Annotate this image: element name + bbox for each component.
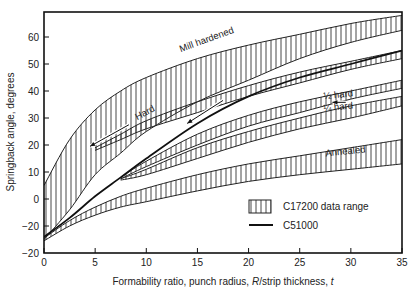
- chart-canvas: Mill hardenedHard½ hard¼ hardAnnealed 05…: [0, 0, 415, 295]
- x-tick-label: 30: [345, 257, 357, 268]
- legend-label-c51000: C51000: [283, 220, 318, 231]
- y-tick-label: 10: [28, 167, 40, 178]
- x-tick-label: 5: [92, 257, 98, 268]
- x-axis: 05101520253035: [41, 248, 408, 268]
- x-tick-label: 35: [396, 257, 408, 268]
- x-tick-label: 25: [294, 257, 306, 268]
- x-tick-label: 10: [141, 257, 153, 268]
- label-mill-hardened: Mill hardened: [178, 24, 235, 54]
- legend: C17200 data range C51000: [249, 200, 369, 231]
- y-tick-label: 50: [28, 59, 40, 70]
- x-tick-label: 15: [192, 257, 204, 268]
- y-tick-label: −20: [22, 248, 39, 259]
- y-tick-label: 30: [28, 113, 40, 124]
- y-tick-label: 40: [28, 86, 40, 97]
- y-tick-label: 20: [28, 140, 40, 151]
- springback-chart: Mill hardenedHard½ hard¼ hardAnnealed 05…: [0, 0, 415, 295]
- y-axis-label: Springback angle, degrees: [5, 73, 16, 192]
- x-tick-label: 20: [243, 257, 255, 268]
- x-tick-label: 0: [41, 257, 47, 268]
- x-axis-label: Formability ratio, punch radius, R/strip…: [112, 276, 334, 287]
- legend-hatch-swatch: [249, 200, 271, 213]
- legend-label-c17200: C17200 data range: [283, 201, 369, 212]
- y-tick-label: 60: [28, 32, 40, 43]
- y-tick-label: −20: [22, 221, 39, 232]
- y-tick-label: 0: [33, 194, 39, 205]
